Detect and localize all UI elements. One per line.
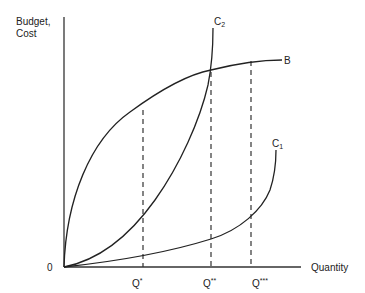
curve-c2: [64, 28, 213, 267]
curve-c1-label: C1: [272, 138, 283, 150]
curve-c2-label: C2: [214, 16, 225, 28]
curve-c1: [64, 150, 276, 267]
y-axis-label-line2: Cost: [16, 28, 37, 39]
budget-cost-diagram: Budget, Cost 0 Quantity B C2 C1 Q* Q** Q…: [0, 0, 365, 293]
q-triple-star-label: Q***: [252, 277, 268, 289]
q-double-star-label: Q**: [203, 277, 217, 289]
curve-b: [64, 60, 282, 267]
q-star-label: Q*: [132, 277, 143, 289]
x-axis-label: Quantity: [311, 262, 348, 273]
y-axis-label-line1: Budget,: [16, 16, 50, 27]
curve-b-label: B: [284, 55, 291, 66]
origin-label: 0: [47, 262, 53, 273]
